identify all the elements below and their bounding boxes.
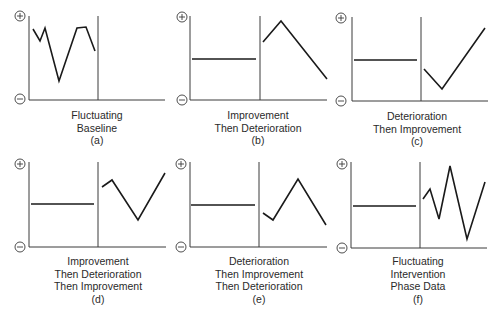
panel-d-intervention-line: [102, 173, 165, 220]
caption-e-line-3: Then Deterioration: [199, 280, 319, 293]
caption-d-label: (d): [38, 293, 158, 306]
caption-f-line-1: Fluctuating: [358, 255, 478, 268]
panel-a-axes: [29, 16, 165, 100]
caption-a-line-1: Fluctuating: [37, 109, 157, 122]
caption-d-line-3: Then Improvement: [38, 280, 158, 293]
panel-a-baseline-line: [33, 27, 95, 81]
panel-e-intervention-line: [263, 179, 326, 225]
caption-f-label: (f): [358, 293, 478, 306]
panel-c-axes: [352, 17, 488, 101]
caption-c: Deterioration Then Improvement (c): [357, 110, 477, 148]
caption-e: Deterioration Then Improvement Then Dete…: [199, 255, 319, 305]
caption-e-line-2: Then Improvement: [199, 268, 319, 281]
caption-e-line-1: Deterioration: [199, 255, 319, 268]
caption-a: Fluctuating Baseline (a): [37, 109, 157, 147]
caption-a-line-2: Baseline: [37, 122, 157, 135]
caption-b: Improvement Then Deterioration (b): [198, 109, 318, 147]
caption-d-line-2: Then Deterioration: [38, 268, 158, 281]
panel-b-axes: [190, 16, 327, 100]
caption-f: Fluctuating Intervention Phase Data (f): [358, 255, 478, 305]
panel-b-intervention-line: [263, 21, 327, 79]
panel-f-intervention-line: [423, 166, 485, 239]
caption-d: Improvement Then Deterioration Then Impr…: [38, 255, 158, 305]
caption-f-line-3: Phase Data: [358, 280, 478, 293]
caption-b-label: (b): [198, 134, 318, 147]
caption-c-line-2: Then Improvement: [357, 123, 477, 136]
caption-b-line-1: Improvement: [198, 109, 318, 122]
caption-c-label: (c): [357, 135, 477, 148]
caption-f-line-2: Intervention: [358, 268, 478, 281]
panel-c-intervention-line: [424, 28, 485, 89]
caption-c-line-1: Deterioration: [357, 110, 477, 123]
caption-b-line-2: Then Deterioration: [198, 122, 318, 135]
caption-a-label: (a): [37, 134, 157, 147]
caption-d-line-1: Improvement: [38, 255, 158, 268]
caption-e-label: (e): [199, 293, 319, 306]
